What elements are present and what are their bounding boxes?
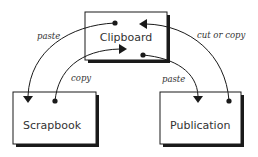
clipboard-label: Clipboard <box>100 31 153 44</box>
source-dot-icon <box>52 98 57 103</box>
source-dot-icon <box>140 52 145 57</box>
clipboard-diagram: Clipboard Scrapbook Publication paste co… <box>0 0 258 157</box>
paste-label: paste <box>37 31 60 41</box>
source-dot-icon <box>226 98 231 103</box>
clipboard-node: Clipboard <box>85 12 170 63</box>
cut-or-copy-label: cut or copy <box>197 30 246 40</box>
scrapbook-label: Scrapbook <box>23 119 82 132</box>
copy-label: copy <box>71 73 91 83</box>
publication-label: Publication <box>170 119 230 132</box>
source-dot-icon <box>112 20 117 25</box>
paste-label: paste <box>162 74 185 84</box>
